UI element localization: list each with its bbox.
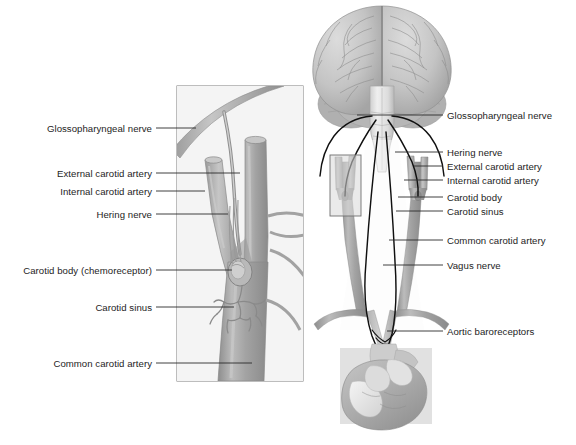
label-external-carotid-artery-main: External carotid artery <box>447 161 542 172</box>
label-internal-carotid-artery: Internal carotid artery <box>60 186 152 197</box>
carotid-callout-box <box>330 155 361 216</box>
heart-illustration <box>340 344 432 430</box>
label-glossopharyngeal-nerve: Glossopharyngeal nerve <box>47 123 152 134</box>
label-carotid-body-main: Carotid body <box>447 192 502 203</box>
label-aortic-baroreceptors: Aortic baroreceptors <box>447 326 534 337</box>
label-carotid-sinus-main: Carotid sinus <box>447 206 504 217</box>
label-carotid-body-chemoreceptor: Carotid body (chemoreceptor) <box>23 265 152 276</box>
carotid-body-nodule-inset <box>228 258 252 286</box>
carotid-baroreceptor-figure: Glossopharyngeal nerveExternal carotid a… <box>0 0 576 445</box>
label-internal-carotid-artery-main: Internal carotid artery <box>447 175 539 186</box>
label-external-carotid-artery: External carotid artery <box>57 168 152 179</box>
label-hering-nerve: Hering nerve <box>96 209 152 220</box>
main-anatomy-group <box>313 6 451 430</box>
label-hering-nerve-main: Hering nerve <box>447 147 503 158</box>
label-common-carotid-artery-inset: Common carotid artery <box>53 358 152 369</box>
label-common-carotid-artery-main: Common carotid artery <box>447 235 546 246</box>
anatomy-illustration <box>0 0 576 445</box>
inset-detail-panel <box>172 86 308 381</box>
label-carotid-sinus: Carotid sinus <box>95 302 152 313</box>
label-vagus-nerve: Vagus nerve <box>447 260 501 271</box>
label-glossopharyngeal-nerve-main: Glossopharyngeal nerve <box>447 110 552 121</box>
